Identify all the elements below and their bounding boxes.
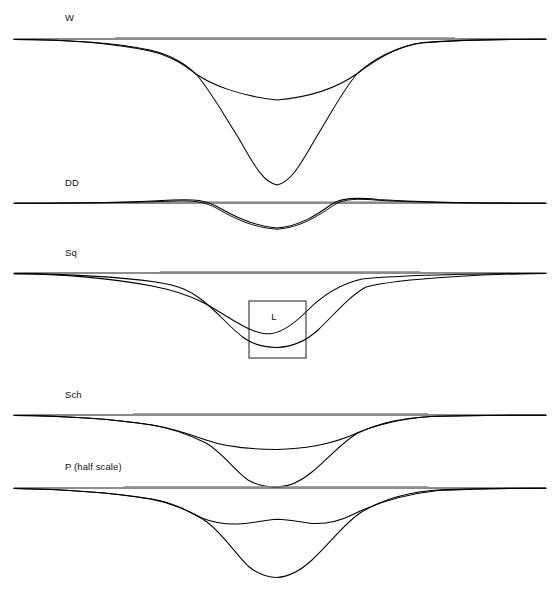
panel-label-Sch: Sch [65, 389, 82, 400]
inset-label-L: L [271, 311, 276, 322]
panel-label-Sq: Sq [65, 247, 77, 258]
profile-figure: W DD Sq L Sch P (half scale) [0, 0, 560, 593]
panel-label-W: W [65, 12, 74, 23]
panel-label-DD: DD [65, 177, 79, 188]
panel-label-P: P (half scale) [65, 461, 122, 472]
figure-background [0, 0, 560, 593]
